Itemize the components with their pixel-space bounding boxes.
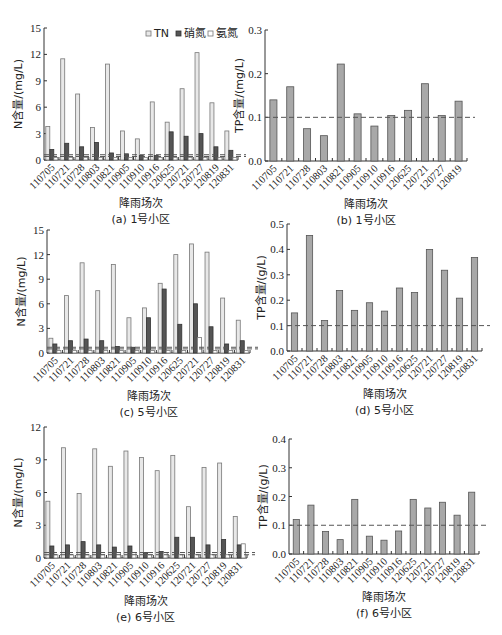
y-tick-label: 9 bbox=[36, 75, 42, 87]
bar-tp bbox=[354, 114, 361, 161]
bar-tn bbox=[105, 64, 109, 160]
bar-tn bbox=[46, 501, 50, 558]
bar-nitrate bbox=[206, 545, 210, 558]
bar-tp bbox=[304, 129, 311, 161]
bar-tp bbox=[291, 313, 297, 351]
bar-tn bbox=[205, 252, 209, 353]
y-tick-label: 6 bbox=[36, 101, 42, 113]
bar-tp bbox=[381, 311, 387, 351]
bar-tp bbox=[270, 100, 277, 161]
y-axis-title: N含量/(mg/L) bbox=[11, 59, 25, 129]
y-tick-label: 3 bbox=[39, 322, 45, 334]
y-tick-label: 0.3 bbox=[272, 462, 286, 474]
bar-tn bbox=[124, 451, 128, 558]
y-tick-label: 0.5 bbox=[270, 218, 284, 230]
y-tick-label: 9 bbox=[36, 454, 42, 466]
panel-caption: (e) 6号小区 bbox=[116, 611, 175, 624]
bar-tn bbox=[120, 131, 124, 160]
y-tick-label: 0.4 bbox=[270, 243, 284, 255]
bar-tn bbox=[61, 448, 65, 558]
bar-tp bbox=[308, 505, 314, 554]
bar-nitrate bbox=[95, 142, 99, 160]
bar-tn bbox=[202, 467, 206, 558]
bar-nitrate bbox=[80, 147, 84, 160]
bar-nitrate bbox=[169, 132, 173, 160]
bar-tp bbox=[396, 288, 402, 351]
chart-b-tp-content-plot-1: 0.00.10.20.31107051107211107281108031108… bbox=[245, 0, 502, 210]
chart-svg: 0369121511070511072111072811080311082111… bbox=[0, 0, 250, 210]
y-tick-label: 0.1 bbox=[248, 111, 262, 123]
bar-tp bbox=[410, 499, 416, 554]
y-tick-label: 0 bbox=[36, 154, 42, 166]
bar-tp bbox=[471, 258, 477, 351]
y-tick-label: 12 bbox=[30, 48, 41, 60]
bar-ammonia bbox=[143, 157, 147, 160]
chart-c-n-content-plot-5: 0369121511070511072111072811080311082111… bbox=[0, 210, 250, 420]
bar-tp bbox=[455, 101, 462, 161]
y-tick-label: 0.4 bbox=[272, 433, 286, 445]
bar-tn bbox=[143, 308, 147, 353]
bar-nitrate bbox=[50, 546, 54, 558]
y-tick-label: 0.0 bbox=[270, 345, 284, 357]
x-axis-title: 降雨场次 bbox=[363, 387, 407, 401]
x-axis-title: 降雨场次 bbox=[127, 389, 171, 403]
bar-ammonia bbox=[166, 351, 170, 353]
bar-nitrate bbox=[162, 289, 166, 353]
bar-tn bbox=[158, 283, 162, 353]
y-tick-label: 9 bbox=[39, 273, 45, 285]
bar-tn bbox=[150, 102, 154, 160]
y-tick-label: 15 bbox=[33, 224, 45, 236]
bar-ammonia bbox=[104, 351, 108, 353]
y-tick-label: 0.3 bbox=[270, 269, 284, 281]
y-tick-label: 3 bbox=[36, 519, 42, 531]
bar-tn bbox=[210, 103, 214, 160]
y-tick-label: 0.2 bbox=[272, 491, 286, 503]
bar-ammonia bbox=[197, 337, 201, 353]
bar-nitrate bbox=[84, 339, 88, 353]
bar-ammonia bbox=[54, 157, 58, 160]
y-tick-label: 0 bbox=[36, 552, 42, 564]
bar-nitrate bbox=[193, 304, 197, 353]
bar-ammonia bbox=[88, 351, 92, 353]
bar-ammonia bbox=[213, 351, 217, 353]
bar-tp bbox=[421, 84, 428, 161]
bar-nitrate bbox=[144, 553, 148, 558]
bar-ammonia bbox=[151, 351, 155, 353]
chart-a-n-content-plot-1: 0369121511070511072111072811080311082111… bbox=[0, 0, 250, 210]
chart-e-n-content-plot-6: 0369121107051107211107281108031108211109… bbox=[0, 420, 250, 635]
y-tick-label: 12 bbox=[30, 421, 41, 433]
bar-tp bbox=[306, 235, 312, 351]
bar-tp bbox=[287, 87, 294, 161]
bar-ammonia bbox=[158, 157, 162, 160]
y-tick-label: 0.2 bbox=[248, 68, 262, 80]
bar-tp bbox=[425, 508, 431, 554]
legend-label: 硝氮 bbox=[184, 26, 206, 40]
y-axis-title: TP含量/(g/L) bbox=[256, 464, 270, 529]
bar-tn bbox=[140, 458, 144, 558]
x-axis-title: 降雨场次 bbox=[362, 590, 406, 604]
bar-tn bbox=[80, 263, 84, 353]
bar-ammonia bbox=[188, 157, 192, 160]
y-tick-label: 0.1 bbox=[272, 519, 286, 531]
bar-tp bbox=[439, 502, 445, 554]
bar-tp bbox=[438, 116, 445, 161]
y-tick-label: 6 bbox=[39, 298, 45, 310]
y-tick-label: 15 bbox=[30, 22, 42, 34]
legend-label: 氨氮 bbox=[216, 26, 238, 40]
bar-tn bbox=[61, 59, 65, 160]
bar-nitrate bbox=[214, 147, 218, 160]
bar-nitrate bbox=[65, 545, 69, 558]
y-tick-label: 0.2 bbox=[270, 294, 284, 306]
bar-tn bbox=[64, 296, 68, 353]
panel-caption: (d) 5号小区 bbox=[355, 404, 414, 417]
bar-tp bbox=[454, 515, 460, 554]
bar-ammonia bbox=[119, 351, 123, 353]
legend-label: TN bbox=[153, 27, 169, 40]
y-tick-label: 0.3 bbox=[248, 24, 262, 36]
bar-tp bbox=[371, 126, 378, 161]
bar-tp bbox=[321, 321, 327, 351]
bar-tn bbox=[76, 94, 80, 160]
bar-tp bbox=[456, 298, 462, 351]
bar-tp bbox=[366, 536, 372, 554]
chart-svg: 0.00.10.20.30.41107051107211107281108031… bbox=[245, 420, 502, 635]
